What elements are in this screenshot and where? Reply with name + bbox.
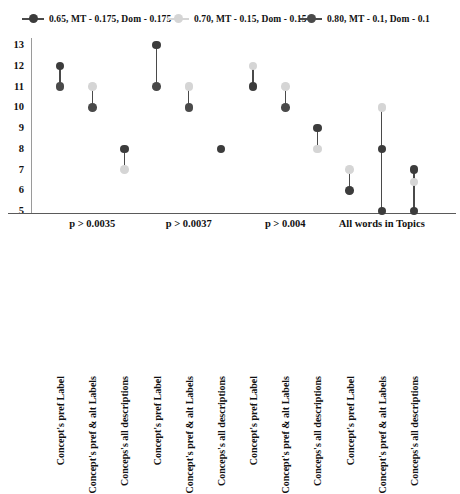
x-axis-label: Concept's pref & alt Labels	[87, 376, 98, 494]
y-axis-ticks: 1312111098765	[0, 32, 30, 220]
group-label-0: p > 0.0035	[69, 218, 115, 229]
y-tick-label: 5	[0, 206, 24, 217]
group-label-3: All words in Topics	[339, 218, 425, 229]
plot-area: 1312111098765	[0, 32, 460, 220]
y-tick-label: 6	[0, 185, 24, 196]
data-point	[345, 165, 354, 174]
data-point	[88, 103, 97, 112]
x-axis-label: Conceps's all descriptions	[119, 376, 130, 486]
data-point	[378, 145, 387, 154]
y-tick-label: 7	[0, 164, 24, 175]
data-point	[378, 103, 387, 112]
legend-dot-dark2-icon	[300, 13, 322, 25]
legend-item-1: 0.70, MT - 0.15, Dom - 0.15	[167, 6, 307, 32]
legend-dot	[307, 14, 316, 23]
range-connector	[381, 107, 382, 211]
data-point	[249, 82, 258, 91]
x-axis-label: Concept's pref Label	[55, 376, 66, 465]
x-axis-category-labels: Concept's pref LabelConcept's pref & alt…	[0, 236, 460, 383]
legend-item-2: 0.80, MT - 0.1, Dom - 0.1	[300, 6, 430, 32]
data-point	[217, 145, 226, 154]
y-tick-label: 9	[0, 123, 24, 134]
data-point	[313, 124, 322, 133]
data-point	[345, 186, 354, 195]
data-point	[185, 103, 194, 112]
data-point	[313, 145, 322, 154]
y-tick-label: 13	[0, 40, 24, 51]
x-axis-label: Concept's pref Label	[248, 376, 259, 465]
range-connector	[156, 45, 157, 87]
y-tick-label: 11	[0, 81, 24, 92]
group-labels: p > 0.0035p > 0.0037p > 0.004All words i…	[0, 218, 460, 234]
data-point	[88, 82, 97, 91]
legend-label: 0.80, MT - 0.1, Dom - 0.1	[327, 14, 430, 24]
x-axis-label: Conceps's all descriptions	[408, 376, 419, 486]
range-connector	[413, 170, 414, 212]
legend-dot-dark-icon	[22, 13, 44, 25]
data-point	[152, 41, 161, 50]
x-axis-label: Concept's pref & alt Labels	[183, 376, 194, 494]
x-axis-label: Conceps's all descriptions	[312, 376, 323, 486]
chart-legend: 0.65, MT - 0.175, Dom - 0.1750.70, MT - …	[0, 6, 460, 32]
data-point	[410, 165, 419, 174]
group-label-2: p > 0.004	[265, 218, 306, 229]
data-point	[120, 145, 129, 154]
y-tick-label: 8	[0, 144, 24, 155]
data-point	[56, 82, 65, 91]
data-point	[152, 82, 161, 91]
x-axis-label: Concept's pref Label	[151, 376, 162, 465]
x-axis-label: Concept's pref & alt Labels	[280, 376, 291, 494]
legend-dot	[174, 14, 183, 23]
legend-item-0: 0.65, MT - 0.175, Dom - 0.175	[22, 6, 171, 32]
legend-label: 0.70, MT - 0.15, Dom - 0.15	[194, 14, 307, 24]
y-tick-label: 10	[0, 102, 24, 113]
y-tick-label: 12	[0, 61, 24, 72]
x-axis-label: Concept's pref & alt Labels	[376, 376, 387, 494]
legend-dot	[29, 14, 38, 23]
x-axis-label: Concept's pref Label	[344, 376, 355, 465]
legend-dot-light-icon	[167, 13, 189, 25]
data-point	[185, 82, 194, 91]
data-points-layer	[32, 36, 452, 214]
group-label-1: p > 0.0037	[166, 218, 212, 229]
data-point	[281, 82, 290, 91]
data-point	[281, 103, 290, 112]
legend-label: 0.65, MT - 0.175, Dom - 0.175	[49, 14, 171, 24]
data-point	[120, 165, 129, 174]
x-axis-label: Conceps's all descriptions	[215, 376, 226, 486]
